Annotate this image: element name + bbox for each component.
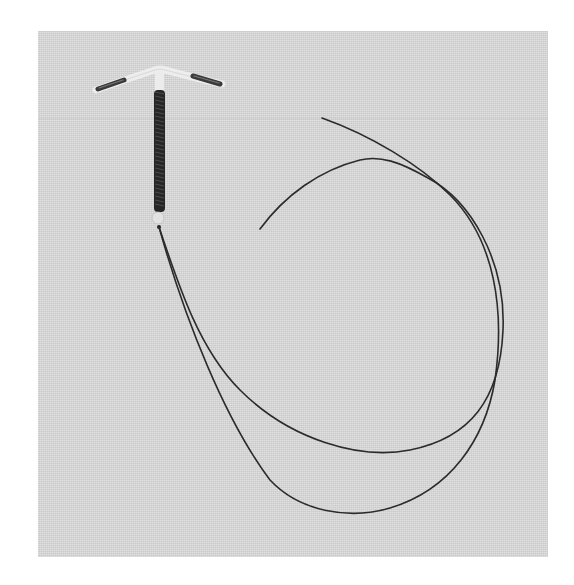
- iud-stem-bulb: [152, 212, 164, 224]
- iud-thread-inner: [159, 158, 503, 452]
- iud-illustration: [0, 0, 574, 585]
- iud-copper-coil: [154, 90, 165, 212]
- iud-thread-outer: [159, 118, 499, 513]
- iud-stem-top: [155, 70, 164, 92]
